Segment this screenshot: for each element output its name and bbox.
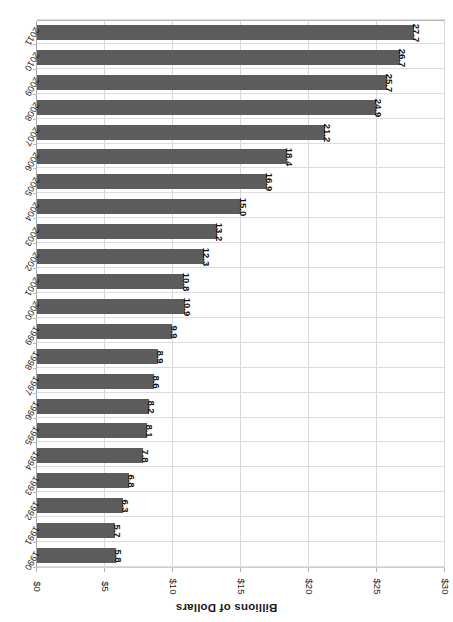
category-tick-mark	[33, 44, 37, 45]
bar-row: 8.9	[37, 343, 445, 368]
bar-row: 6.3	[37, 492, 445, 517]
bar	[37, 349, 158, 364]
bar-value-label: 27.7	[408, 16, 424, 50]
bar	[37, 224, 217, 239]
category-tick-mark	[33, 343, 37, 344]
bar-row: 15.0	[37, 193, 445, 218]
category-tick-mark	[33, 567, 37, 568]
bar-row: 8.1	[37, 418, 445, 443]
bar	[37, 274, 184, 289]
bar-value-label: 13.2	[211, 215, 227, 249]
bar-chart-figure: Billions of Dollars $0$5$10$15$20$25$30 …	[0, 0, 453, 622]
bar-value-label: 21.2	[319, 116, 335, 150]
bar-value-label: 16.9	[261, 165, 277, 199]
category-tick-mark	[33, 293, 37, 294]
category-tick-mark	[33, 69, 37, 70]
bar	[37, 25, 414, 40]
bar	[37, 324, 172, 339]
bar-row: 26.7	[37, 44, 445, 69]
bar-row: 10.8	[37, 268, 445, 293]
bar-row: 5.7	[37, 517, 445, 542]
bar	[37, 174, 267, 189]
bar	[37, 149, 287, 164]
category-tick-mark	[33, 418, 37, 419]
value-tick-label: $0	[32, 567, 43, 607]
bar-value-label: 10.8	[178, 265, 194, 299]
bar	[37, 473, 129, 488]
category-axis-labels: 1990199119921993199419951996199719981999…	[0, 20, 37, 568]
bar-row: 18.4	[37, 144, 445, 169]
value-axis-ticks: $0$5$10$15$20$25$30	[0, 570, 453, 592]
rotated-figure-wrapper: Billions of Dollars $0$5$10$15$20$25$30 …	[0, 0, 453, 622]
bar	[37, 374, 154, 389]
category-tick-mark	[33, 492, 37, 493]
value-tick-label: $15	[236, 567, 247, 607]
value-tick-label: $5	[100, 567, 111, 607]
category-tick-mark	[33, 467, 37, 468]
value-tick-label: $20	[304, 567, 315, 607]
bar-row: 9.9	[37, 318, 445, 343]
bar-row: 5.8	[37, 542, 445, 567]
bar	[37, 50, 400, 65]
bar-value-label: 18.4	[281, 140, 297, 174]
bar	[37, 75, 387, 90]
category-tick-mark	[33, 517, 37, 518]
bar	[37, 299, 185, 314]
bar	[37, 199, 241, 214]
bar	[37, 100, 376, 115]
bar	[37, 548, 116, 563]
bar-value-label: 15.0	[235, 190, 251, 224]
bar-row: 8.2	[37, 393, 445, 418]
category-tick-mark	[33, 268, 37, 269]
plot-area: 5.85.76.36.87.88.18.28.68.99.910.910.812…	[37, 20, 445, 568]
bar	[37, 523, 115, 538]
category-tick-mark	[33, 218, 37, 219]
value-tick-label: $10	[168, 567, 179, 607]
bar-row: 7.8	[37, 442, 445, 467]
category-tick-mark	[33, 393, 37, 394]
category-tick-mark	[33, 368, 37, 369]
bar-row: 8.6	[37, 368, 445, 393]
category-tick-mark	[33, 119, 37, 120]
bar	[37, 125, 325, 140]
bar	[37, 498, 123, 513]
value-tick-label: $30	[440, 567, 451, 607]
category-tick-mark	[33, 243, 37, 244]
value-tick-label: $25	[372, 567, 383, 607]
category-tick-mark	[33, 318, 37, 319]
bar-row: 6.8	[37, 467, 445, 492]
category-tick-mark	[33, 168, 37, 169]
category-tick-mark	[33, 144, 37, 145]
value-axis-title: Billions of Dollars	[0, 602, 453, 614]
bar	[37, 423, 147, 438]
bars-layer: 5.85.76.36.87.88.18.28.68.99.910.910.812…	[37, 21, 445, 567]
category-tick-mark	[33, 193, 37, 194]
bar-row: 12.3	[37, 243, 445, 268]
bar	[37, 448, 143, 463]
category-tick-mark	[33, 94, 37, 95]
bar	[37, 249, 204, 264]
bar-row: 27.7	[37, 19, 445, 44]
bar-row: 10.9	[37, 293, 445, 318]
category-tick-mark	[33, 542, 37, 543]
category-tick-mark	[33, 442, 37, 443]
bar-row: 25.7	[37, 69, 445, 94]
bar-row: 16.9	[37, 168, 445, 193]
bar	[37, 399, 149, 414]
